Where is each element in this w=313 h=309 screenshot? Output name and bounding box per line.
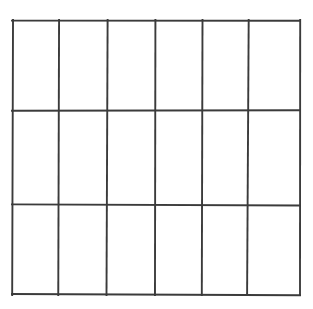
- grid-vertical-line: [58, 20, 59, 295]
- grid-horizontal-line: [12, 204, 300, 205]
- grid-cell[interactable]: [107, 205, 155, 295]
- grid-cell[interactable]: [248, 110, 300, 205]
- grid-cell[interactable]: [155, 205, 202, 295]
- grid-vertical-line: [12, 20, 13, 295]
- grid-vertical-line: [202, 20, 203, 295]
- grid-cell[interactable]: [155, 20, 202, 110]
- grid-cell[interactable]: [12, 205, 59, 295]
- grid-cell[interactable]: [59, 110, 107, 205]
- grid-cell[interactable]: [248, 205, 300, 295]
- grid-cell[interactable]: [12, 110, 59, 205]
- grid-canvas: [0, 0, 313, 309]
- grid-cell[interactable]: [59, 20, 107, 110]
- grid-horizontal-line: [12, 294, 300, 295]
- grid-cell[interactable]: [59, 205, 107, 295]
- grid-cell[interactable]: [248, 20, 300, 110]
- grid-diagram: [0, 0, 313, 309]
- grid-cell[interactable]: [202, 205, 248, 295]
- grid-cell[interactable]: [155, 110, 202, 205]
- grid-cell[interactable]: [202, 110, 248, 205]
- grid-cell[interactable]: [12, 20, 59, 110]
- grid-vertical-line: [106, 20, 107, 295]
- grid-cell[interactable]: [202, 20, 248, 110]
- grid-cell[interactable]: [107, 20, 155, 110]
- grid-cell[interactable]: [107, 110, 155, 205]
